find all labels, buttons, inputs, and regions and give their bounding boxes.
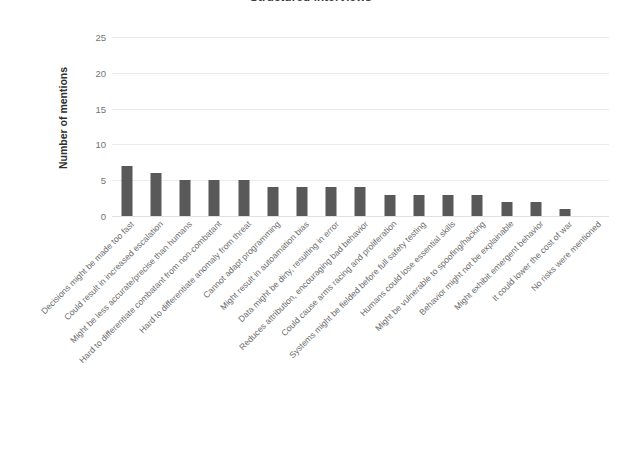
y-tick-label-5: 5 xyxy=(90,175,106,186)
x-axis-label: Might be less accurate/precise than huma… xyxy=(68,219,194,345)
bar[interactable] xyxy=(238,180,249,216)
bar[interactable] xyxy=(326,187,337,216)
bar[interactable] xyxy=(209,180,220,216)
bars-group xyxy=(112,37,609,216)
y-tick-label-15: 15 xyxy=(90,103,106,114)
x-axis-category-labels: Decisions might be made too fastCould re… xyxy=(112,217,609,427)
bar-slot[interactable] xyxy=(521,37,550,216)
bar-slot[interactable] xyxy=(463,37,492,216)
bar[interactable] xyxy=(297,187,308,216)
bar-slot[interactable] xyxy=(287,37,316,216)
bar-slot[interactable] xyxy=(375,37,404,216)
bar-slot[interactable] xyxy=(434,37,463,216)
y-tick-label-25: 25 xyxy=(90,32,106,43)
y-axis-title: Number of mentions xyxy=(56,53,70,183)
bar-slot[interactable] xyxy=(404,37,433,216)
bar-slot[interactable] xyxy=(492,37,521,216)
bar-slot[interactable] xyxy=(112,37,141,216)
x-axis-label: Might be vulnerable to spoofing/hacking xyxy=(373,219,487,333)
y-tick-label-0: 0 xyxy=(90,211,106,222)
bar[interactable] xyxy=(530,202,541,216)
bar[interactable] xyxy=(384,195,395,216)
bar[interactable] xyxy=(355,187,366,216)
bar[interactable] xyxy=(150,173,161,216)
bar[interactable] xyxy=(180,180,191,216)
bar-slot[interactable] xyxy=(317,37,346,216)
y-tick-label-10: 10 xyxy=(90,139,106,150)
bar-slot[interactable] xyxy=(229,37,258,216)
x-axis-label: Systems might be fielded before full saf… xyxy=(287,219,428,360)
bar-slot[interactable] xyxy=(170,37,199,216)
plot-area xyxy=(112,37,609,216)
bar[interactable] xyxy=(501,202,512,216)
bar-slot[interactable] xyxy=(346,37,375,216)
bar[interactable] xyxy=(472,195,483,216)
bar-slot[interactable] xyxy=(580,37,609,216)
bar[interactable] xyxy=(560,209,571,216)
bar-slot[interactable] xyxy=(141,37,170,216)
bar-slot[interactable] xyxy=(200,37,229,216)
bar-slot[interactable] xyxy=(258,37,287,216)
y-tick-label-20: 20 xyxy=(90,67,106,78)
chart-title: Structured interviews xyxy=(0,0,622,3)
bar[interactable] xyxy=(267,187,278,216)
bar[interactable] xyxy=(121,166,132,216)
bar-chart-figure: Structured interviews Number of mentions… xyxy=(0,0,622,466)
bar[interactable] xyxy=(413,195,424,216)
bar[interactable] xyxy=(443,195,454,216)
bar-slot[interactable] xyxy=(551,37,580,216)
